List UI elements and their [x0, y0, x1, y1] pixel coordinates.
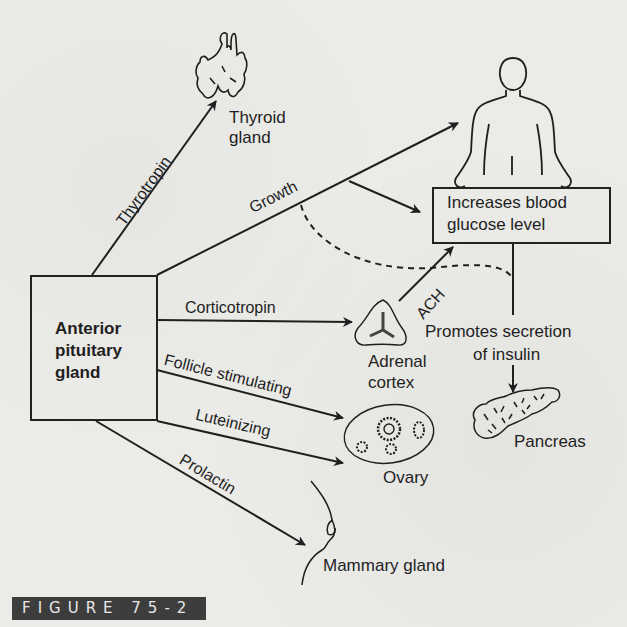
anterior-pituitary-label-line3: gland: [55, 362, 100, 383]
ovary-label: Ovary: [383, 468, 428, 487]
growth-arrow: [157, 123, 458, 275]
thyroid-icon: [196, 33, 247, 98]
corticotropin-arrow: [157, 320, 352, 322]
insulin-effect-line2: of insulin: [473, 345, 540, 364]
thyroid-label-line2: gland: [229, 128, 271, 147]
insulin-effect-line1: Promotes secretion: [425, 322, 571, 341]
adrenal-cortex-icon: [355, 300, 406, 345]
adrenal-label-line1: Adrenal: [368, 352, 427, 371]
figure-number-badge: FIGURE 75-2: [12, 597, 206, 620]
human-body-icon: [455, 58, 571, 187]
mammary-gland-label: Mammary gland: [323, 556, 445, 575]
ovary-icon: [340, 399, 437, 469]
prolactin-arrow: [96, 421, 305, 545]
anterior-pituitary-label-line1: Anterior: [55, 318, 121, 339]
adrenal-label-line2: cortex: [368, 373, 414, 392]
pancreas-label: Pancreas: [514, 432, 586, 451]
anterior-pituitary-label-line2: pituitary: [55, 340, 122, 361]
glucose-effect-line2: glucose level: [447, 215, 545, 234]
pancreas-icon: [473, 388, 559, 439]
growth-glucose-arrow: [349, 181, 420, 212]
corticotropin-label: Corticotropin: [185, 298, 276, 317]
thyroid-label-line1: Thyroid: [229, 108, 286, 127]
glucose-effect-line1: Increases blood: [447, 193, 567, 212]
